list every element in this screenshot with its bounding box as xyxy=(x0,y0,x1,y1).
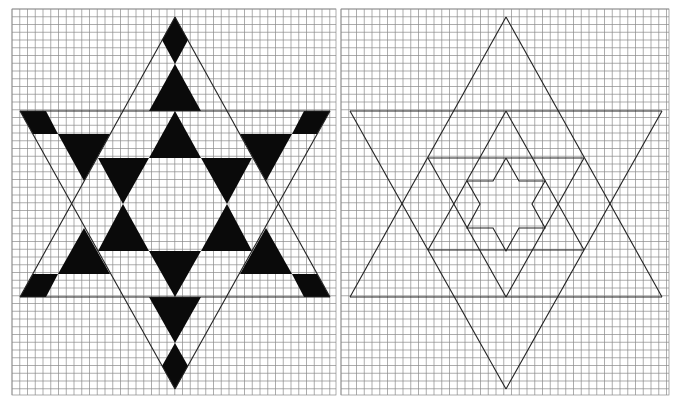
black-triangle xyxy=(20,274,58,297)
black-triangle xyxy=(98,158,149,204)
black-triangle xyxy=(98,204,149,251)
figure-canvas xyxy=(0,0,679,407)
black-triangle xyxy=(149,251,201,297)
black-triangle xyxy=(162,17,188,64)
graph-paper-grid xyxy=(341,9,669,395)
left-panel-hexagram-filled xyxy=(12,9,336,395)
black-triangle xyxy=(292,111,330,134)
black-triangle xyxy=(149,297,201,343)
black-triangle xyxy=(292,274,330,297)
black-triangle xyxy=(58,134,110,181)
black-triangle xyxy=(20,111,58,134)
black-triangle xyxy=(149,111,201,158)
right-panel-hexagram-outlines xyxy=(341,9,669,395)
black-triangle xyxy=(240,134,292,181)
